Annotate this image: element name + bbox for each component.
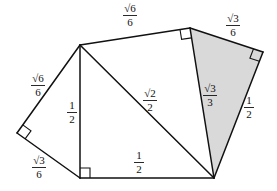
label-ae: 1 2	[67, 99, 77, 125]
label-af: √6 6	[31, 72, 45, 98]
edge-ef	[17, 133, 80, 178]
label-bc-numerator: √3	[227, 12, 239, 24]
label-af-denominator: 6	[35, 86, 41, 98]
label-fe-denominator: 6	[36, 168, 42, 180]
label-ab: √6 6	[123, 2, 137, 28]
label-ed: 1 2	[134, 149, 144, 175]
label-ed-denominator: 2	[136, 163, 142, 175]
label-ed-numerator: 1	[136, 149, 142, 161]
label-bc-denominator: 6	[230, 26, 236, 38]
label-bd-denominator: 3	[207, 96, 213, 108]
label-bd-numerator: √3	[204, 82, 216, 94]
edge-ab	[80, 28, 190, 45]
label-bc: √3 6	[226, 12, 240, 38]
label-ae-denominator: 2	[69, 113, 75, 125]
label-ab-denominator: 6	[127, 16, 133, 28]
shaded-triangle-bcd	[190, 28, 263, 178]
label-cd: 1 2	[244, 94, 254, 120]
label-ae-numerator: 1	[69, 99, 75, 111]
spiral-triangles-diagram: √6 6 √3 6 √3 3 1 2 √2 2 1 2 1 2 √6 6 √3	[0, 0, 277, 191]
label-ab-numerator: √6	[124, 2, 136, 14]
label-cd-numerator: 1	[246, 94, 252, 106]
label-ad-denominator: 2	[147, 101, 153, 113]
label-ad-numerator: √2	[144, 87, 156, 99]
label-af-numerator: √6	[32, 72, 44, 84]
label-fe: √3 6	[32, 154, 46, 180]
label-cd-denominator: 2	[246, 108, 252, 120]
label-fe-numerator: √3	[33, 154, 45, 166]
right-angle-marker-f	[23, 125, 31, 139]
right-angle-marker-e	[80, 168, 90, 178]
